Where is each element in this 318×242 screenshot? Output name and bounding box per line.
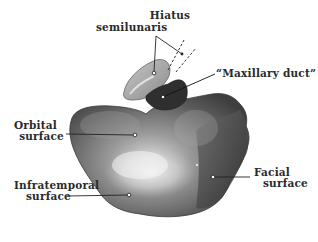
label-hiatus-line2: semilunaris [96, 22, 167, 33]
label-orbital-surface: Orbital surface [14, 120, 64, 142]
label-hiatus-line1: Hiatus [148, 10, 192, 21]
label-infratemporal-surface: Infratemporal surface [14, 180, 86, 202]
label-hiatus: Hiatus [148, 10, 192, 21]
label-orbital-line2: surface [14, 131, 64, 142]
anatomical-diagram: Hiatus semilunaris “Maxillary duct” Orbi… [0, 0, 318, 242]
label-facial-surface: Facial surface [254, 167, 308, 189]
label-semilunaris: semilunaris [96, 22, 167, 33]
label-facial-line2: surface [254, 178, 308, 189]
label-maxillary-duct-text: “Maxillary duct” [216, 68, 316, 79]
label-infratemporal-line2: surface [14, 191, 86, 202]
label-maxillary-duct: “Maxillary duct” [216, 68, 316, 79]
